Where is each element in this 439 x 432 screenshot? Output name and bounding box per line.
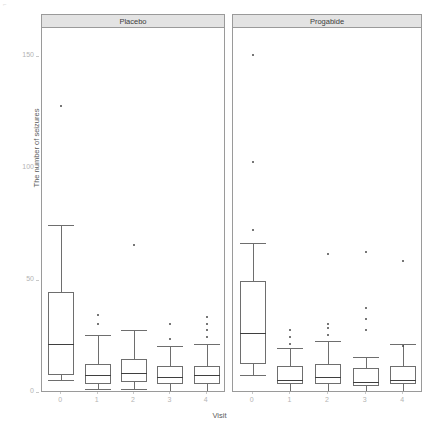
x-tick-label: 0 bbox=[242, 396, 262, 403]
y-tick-label: 50 bbox=[0, 275, 34, 282]
top-caption bbox=[120, 0, 438, 9]
y-tick-mark bbox=[36, 280, 39, 281]
facet-strip-placebo: Placebo bbox=[42, 15, 224, 28]
y-tick-label: 150 bbox=[0, 51, 34, 58]
y-tick-label: 100 bbox=[0, 163, 34, 170]
plot-area-placebo bbox=[42, 28, 224, 391]
outlier-point bbox=[206, 323, 208, 325]
x-tick-label: 0 bbox=[50, 396, 70, 403]
outlier-point bbox=[206, 336, 208, 338]
x-tick-label: 3 bbox=[159, 396, 179, 403]
box bbox=[390, 366, 416, 384]
facet-panel-placebo: Placebo bbox=[41, 14, 225, 392]
median-line bbox=[390, 380, 416, 381]
facet-strip-progabide: Progabide bbox=[233, 15, 421, 28]
x-tick-label: 4 bbox=[392, 396, 412, 403]
whisker-lower bbox=[403, 384, 404, 391]
boxplot-group bbox=[42, 28, 224, 391]
x-tick-label: 1 bbox=[87, 396, 107, 403]
outlier-point bbox=[206, 329, 208, 331]
whisker-cap-upper bbox=[194, 344, 220, 345]
x-axis-title: Visit bbox=[0, 411, 439, 420]
x-tick-label: 2 bbox=[123, 396, 143, 403]
y-tick-mark bbox=[36, 392, 39, 393]
outlier-point bbox=[402, 260, 404, 262]
whisker-lower bbox=[207, 384, 208, 391]
whisker-upper bbox=[207, 344, 208, 366]
y-tick-label: 0 bbox=[0, 387, 34, 394]
chart-root: ⌐ The number of seizures Visit 050100150… bbox=[0, 0, 439, 432]
y-tick-mark bbox=[36, 168, 39, 169]
outlier-point bbox=[206, 316, 208, 318]
y-tick-mark bbox=[36, 56, 39, 57]
x-tick-label: 2 bbox=[317, 396, 337, 403]
x-tick-label: 3 bbox=[355, 396, 375, 403]
x-tick-label: 1 bbox=[279, 396, 299, 403]
facet-panel-progabide: Progabide bbox=[232, 14, 422, 392]
x-tick-label: 4 bbox=[196, 396, 216, 403]
whisker-upper bbox=[403, 344, 404, 366]
top-corner-mark: ⌐ bbox=[3, 2, 7, 6]
median-line bbox=[194, 375, 220, 376]
plot-area-progabide bbox=[233, 28, 421, 391]
boxplot-group bbox=[233, 28, 421, 391]
